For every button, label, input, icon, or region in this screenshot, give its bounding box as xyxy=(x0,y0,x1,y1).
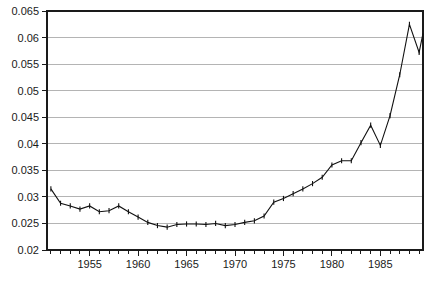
x-axis-tick-label: 1960 xyxy=(126,258,150,270)
y-axis-tick-label: 0.025 xyxy=(11,217,39,229)
y-axis-tick-label: 0.02 xyxy=(18,244,39,256)
x-axis-tick-label: 1980 xyxy=(320,258,344,270)
x-axis-tick-label: 1965 xyxy=(174,258,198,270)
y-axis-tick-label: 0.04 xyxy=(18,138,39,150)
x-axis-tick-label: 1955 xyxy=(77,258,101,270)
y-axis-tick-label: 0.045 xyxy=(11,111,39,123)
x-axis-tick-label: 1985 xyxy=(368,258,392,270)
chart-background xyxy=(0,0,436,282)
y-axis-tick-label: 0.035 xyxy=(11,164,39,176)
x-axis-tick-label: 1975 xyxy=(271,258,295,270)
y-axis-tick-label: 0.05 xyxy=(18,85,39,97)
y-axis-tick-label: 0.065 xyxy=(11,5,39,17)
y-axis-tick-label: 0.06 xyxy=(18,32,39,44)
x-axis-tick-label: 1970 xyxy=(223,258,247,270)
y-axis-tick-label: 0.055 xyxy=(11,58,39,70)
line-chart: 0.020.0250.030.0350.040.0450.050.0550.06… xyxy=(0,0,436,282)
y-axis-tick-label: 0.03 xyxy=(18,191,39,203)
